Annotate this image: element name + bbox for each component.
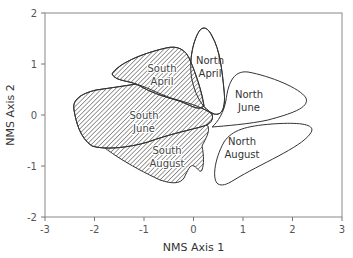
x-tick-label: 2 bbox=[289, 224, 295, 235]
label-south-june-line2: June bbox=[132, 123, 155, 134]
label-north-june-line1: North bbox=[235, 89, 263, 100]
label-south-april-line2: April bbox=[151, 76, 174, 87]
label-south-august-line2: August bbox=[150, 158, 185, 169]
y-tick-label: 1 bbox=[31, 59, 37, 70]
x-tick-label: -2 bbox=[90, 224, 100, 235]
y-tick-label: 2 bbox=[31, 8, 37, 19]
x-tick-label: -1 bbox=[139, 224, 149, 235]
label-north-june-line2: June bbox=[237, 102, 260, 113]
x-axis-title: NMS Axis 1 bbox=[163, 241, 225, 254]
label-north-april-line2: April bbox=[199, 68, 222, 79]
label-south-april-line1: South bbox=[147, 63, 176, 74]
x-tick-label: 0 bbox=[190, 224, 196, 235]
label-south-august-line1: South bbox=[152, 145, 181, 156]
y-ticks bbox=[41, 13, 45, 217]
label-south-june-line1: South bbox=[129, 110, 158, 121]
x-tick-label: -3 bbox=[40, 224, 50, 235]
x-tick-label: 1 bbox=[240, 224, 246, 235]
x-tick-label: 3 bbox=[339, 224, 345, 235]
y-tick-label: -1 bbox=[27, 161, 37, 172]
label-north-august-line1: North bbox=[228, 136, 256, 147]
y-axis-title: NMS Axis 2 bbox=[4, 84, 17, 146]
x-ticks bbox=[45, 217, 342, 221]
y-tick-label: -2 bbox=[27, 212, 37, 223]
label-north-april-line1: North bbox=[196, 55, 224, 66]
label-north-august-line2: August bbox=[225, 149, 260, 160]
y-tick-label: 0 bbox=[31, 110, 37, 121]
nms-ordination-chart: -3 -2 -1 0 1 2 3 2 1 0 -1 -2 NMS Axis 1 … bbox=[0, 0, 353, 258]
